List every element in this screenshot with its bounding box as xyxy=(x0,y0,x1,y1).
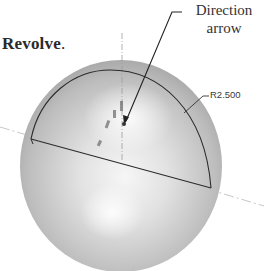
callout-line-1: Direction xyxy=(186,1,262,19)
instruction-punctuation: . xyxy=(61,34,65,53)
revolve-figure: Revolve. Direction arrow R2.500 xyxy=(0,0,264,271)
arrow-origin-dot xyxy=(122,122,126,126)
instruction-text: Revolve. xyxy=(2,34,65,54)
sphere-highlight-bottom xyxy=(80,184,144,240)
callout-line-2: arrow xyxy=(186,19,262,37)
radius-dimension-label: R2.500 xyxy=(210,89,241,100)
direction-arrow-callout: Direction arrow xyxy=(186,1,262,37)
instruction-word: Revolve xyxy=(2,34,61,53)
